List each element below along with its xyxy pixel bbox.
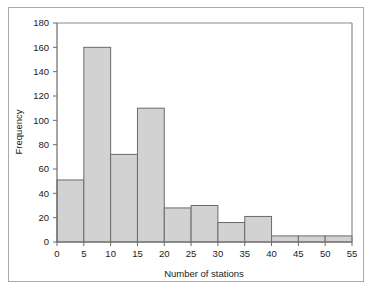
y-axis-tick-label: 40 (38, 188, 49, 199)
histogram-bar (137, 108, 164, 242)
x-axis-tick-label: 50 (320, 248, 331, 259)
figure-container: 020406080100120140160180 051015202530354… (0, 0, 375, 295)
histogram-bar (218, 223, 245, 242)
y-axis-tick-label: 20 (38, 212, 49, 223)
x-axis-tick-label: 45 (293, 248, 304, 259)
x-axis-tick-label: 55 (347, 248, 358, 259)
x-axis-title: Number of stations (164, 268, 244, 279)
histogram-bar (325, 236, 352, 242)
y-axis-tick-label: 120 (33, 90, 49, 101)
x-axis-tick-label: 5 (81, 248, 86, 259)
x-axis: 0510152025303540455055 (54, 242, 357, 259)
y-axis: 020406080100120140160180 (33, 17, 57, 247)
x-axis-tick-label: 40 (266, 248, 277, 259)
y-axis-tick-label: 160 (33, 42, 49, 53)
histogram-bar (164, 208, 191, 242)
y-axis-tick-label: 140 (33, 66, 49, 77)
y-axis-tick-label: 180 (33, 17, 49, 28)
x-axis-tick-label: 25 (186, 248, 197, 259)
x-axis-tick-label: 15 (132, 248, 143, 259)
y-axis-tick-label: 0 (44, 236, 49, 247)
x-axis-tick-label: 30 (213, 248, 224, 259)
histogram-bar (245, 216, 272, 242)
histogram-bar (111, 154, 138, 242)
y-axis-tick-label: 60 (38, 163, 49, 174)
x-axis-tick-label: 0 (54, 248, 59, 259)
y-axis-title: Frequency (13, 109, 24, 154)
x-axis-tick-label: 35 (239, 248, 250, 259)
histogram-bar (191, 206, 218, 243)
histogram-bar (298, 236, 325, 242)
x-axis-tick-label: 20 (159, 248, 170, 259)
histogram-bar (57, 180, 84, 242)
y-axis-tick-label: 100 (33, 115, 49, 126)
histogram-bar (272, 236, 299, 242)
histogram-chart: 020406080100120140160180 051015202530354… (0, 0, 375, 295)
histogram-bar (84, 47, 111, 242)
x-axis-tick-label: 10 (105, 248, 116, 259)
y-axis-tick-label: 80 (38, 139, 49, 150)
